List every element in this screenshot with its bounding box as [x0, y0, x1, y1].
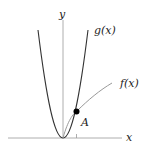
curve-f-label: f(x)	[119, 77, 139, 90]
curve-g-label: g(x)	[94, 24, 116, 37]
x-axis-label: x	[126, 131, 133, 144]
point-a-label: A	[80, 116, 89, 129]
diagram-canvas: y x g(x) f(x) A	[0, 0, 149, 154]
y-axis-label: y	[58, 8, 66, 21]
curve-f	[63, 83, 112, 138]
point-a-marker	[74, 109, 80, 115]
